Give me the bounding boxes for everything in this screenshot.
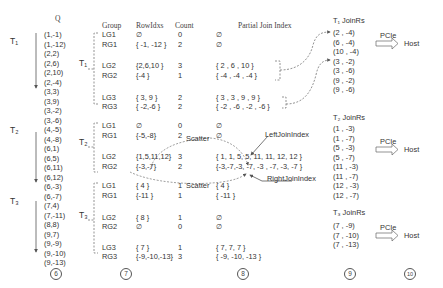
rowidxs-header: RowIdxs [136, 21, 163, 30]
row-idxs: { 4 } [136, 181, 149, 190]
count: 1 [178, 243, 182, 252]
count: 1 [178, 191, 182, 200]
q-tuple: (6,-7) [44, 192, 62, 201]
t3-label: T₃ [10, 196, 19, 206]
t2-joinrs-header: T₂ JoinRs [333, 113, 365, 122]
group-name: LG1 [102, 30, 116, 39]
group-name: RG1 [102, 40, 117, 49]
count: 2 [178, 131, 182, 140]
count: 2 [178, 40, 182, 49]
q-tuple: (6,5) [44, 154, 59, 163]
t3-joinrs-header: T₃ JoinRs [333, 208, 365, 217]
group-name: LG2 [102, 61, 116, 70]
partial-join-index: ∅ [216, 121, 222, 130]
t3-group-label: T₃ [79, 210, 88, 220]
row-idxs: { -1, -12 } [136, 40, 166, 49]
count: 3 [178, 61, 182, 70]
group-name: LG3 [102, 93, 116, 102]
pcie-label: PCIe [380, 137, 396, 146]
partial-join-index: ∅ [216, 30, 222, 39]
q-tuple: (6,12) [44, 173, 63, 182]
count: 2 [178, 102, 182, 111]
joinrs-tuple: (3 , -6) [333, 66, 355, 75]
group-name: LG1 [102, 121, 116, 130]
left-join-index-label: LeftJoinIndex [265, 130, 309, 139]
row-idxs: {1,5,11,12} [136, 152, 171, 161]
q-tuple: (9,-9) [44, 239, 62, 248]
row-idxs: ∅ [136, 222, 142, 231]
count: 1 [178, 213, 182, 222]
count: 3 [178, 152, 182, 161]
t1-joinrs-header: T₁ JoinRs [333, 16, 365, 25]
q-tuple: (6,11) [44, 163, 63, 172]
joinrs-tuple: (11 , -3) [333, 162, 358, 171]
joinrs-tuple: (9 , -2) [333, 76, 355, 85]
joinrs-tuple: (1 , -7) [333, 134, 355, 143]
joinrs-tuple: (5 , -3) [333, 143, 355, 152]
row-idxs: { -2,-6 } [136, 102, 160, 111]
step-6-label: 6 [50, 268, 62, 280]
q-tuple: (3,-2) [44, 106, 62, 115]
joinrs-tuple: (10 , -4) [333, 47, 359, 56]
pcie-label: PCIe [380, 223, 396, 232]
group-name: LG3 [102, 243, 116, 252]
group-name: RG1 [102, 191, 117, 200]
right-join-index-label: RightJoinIndex [267, 174, 316, 183]
joinrs-tuple: (2 , -4) [333, 28, 355, 37]
t2-group-label: T₂ [79, 137, 88, 147]
count: 1 [178, 181, 182, 190]
t2-label: T₂ [10, 125, 19, 135]
partial-join-index: { 3 , 3 , 9 , 9 } [216, 93, 260, 102]
group-name: RG3 [102, 252, 117, 261]
t1-group-label: T₁ [79, 58, 87, 68]
group-header: Group [102, 21, 121, 30]
q-tuple: (6,1) [44, 144, 59, 153]
t1-label: T₁ [10, 36, 18, 46]
q-tuple: (3,3) [44, 87, 59, 96]
q-tuple: (1,-12) [44, 40, 66, 49]
step-9-label: 9 [344, 268, 356, 280]
step-10-label: 10 [404, 268, 416, 280]
count: 0 [178, 121, 182, 130]
joinrs-tuple: (3 , -2) [333, 57, 355, 66]
pcie-label: PCIe [380, 31, 396, 40]
count: 2 [178, 93, 182, 102]
q-tuple: (7,-11) [44, 211, 65, 220]
joinrs-tuple: (6 , -4) [333, 38, 355, 47]
row-idxs: {-4 } [136, 71, 150, 80]
q-tuple: (9,-10) [44, 249, 66, 258]
row-idxs: {2,6,10 } [136, 61, 164, 70]
partial-join-index: ∅ [216, 213, 222, 222]
group-name: RG2 [102, 162, 117, 171]
group-name: LG2 [102, 213, 116, 222]
q-tuple: (4,-8) [44, 135, 62, 144]
partial-join-index: ∅ [216, 222, 222, 231]
group-name: RG1 [102, 131, 117, 140]
row-idxs: {-9,-10,-13} [136, 252, 173, 261]
joinrs-tuple: (7 , -9) [333, 221, 355, 230]
partial-join-index-header: Partial Join Index [238, 21, 292, 30]
joinrs-tuple: (7 , -10) [333, 231, 359, 240]
q-header: Q [55, 14, 60, 23]
joinrs-tuple: (7 , -13) [333, 240, 359, 249]
q-tuple: (2,6) [44, 59, 59, 68]
partial-join-index: { 7, 7, 7 } [216, 243, 246, 252]
host-label: Host [404, 145, 419, 154]
row-idxs: {-5,-8} [136, 131, 156, 140]
partial-join-index: ∅ [216, 131, 222, 140]
q-tuple: (6,-3) [44, 182, 62, 191]
partial-join-index: { 4 } [216, 181, 229, 190]
q-tuple: (3,-6) [44, 116, 62, 125]
step-8-label: 8 [237, 268, 249, 280]
group-name: RG2 [102, 222, 117, 231]
partial-join-index: { 2 , 6 , 10 } [216, 61, 254, 70]
joinrs-tuple: (11 , -7) [333, 172, 358, 181]
count: 1 [178, 71, 182, 80]
row-idxs: { 8 } [136, 213, 149, 222]
group-name: LG2 [102, 152, 116, 161]
count: 2 [178, 162, 182, 171]
partial-join-index: { -2 , -6 , -2 , -6 } [216, 102, 270, 111]
q-tuple: (3,9) [44, 97, 59, 106]
joinrs-tuple: (5 , -7) [333, 153, 355, 162]
q-tuple: (2,10) [44, 68, 63, 77]
